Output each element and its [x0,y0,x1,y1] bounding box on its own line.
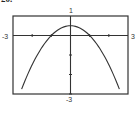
xmin-label: -3 [2,33,8,40]
graph [0,0,137,122]
xmax-label: 3 [131,33,135,40]
ymin-label: -3 [66,96,72,103]
ymax-label: 1 [69,7,73,14]
